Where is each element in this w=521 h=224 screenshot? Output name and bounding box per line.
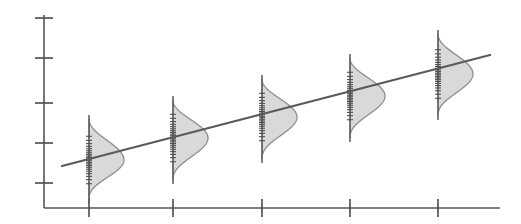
distribution-2 bbox=[170, 96, 208, 184]
distribution-4 bbox=[347, 54, 385, 142]
density-curve-4 bbox=[350, 58, 385, 138]
trend-line bbox=[62, 55, 490, 166]
distribution-5 bbox=[435, 30, 473, 120]
density-curve-2 bbox=[173, 100, 208, 180]
chart-container bbox=[0, 0, 521, 224]
density-curve-1 bbox=[89, 119, 124, 199]
distribution-series bbox=[86, 30, 473, 203]
distribution-3 bbox=[259, 75, 297, 163]
density-curve-3 bbox=[262, 79, 297, 159]
density-curve-5 bbox=[438, 34, 473, 116]
regression-density-chart bbox=[0, 0, 521, 224]
